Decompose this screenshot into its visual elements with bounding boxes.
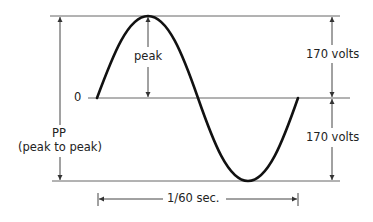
upper-voltage-label: 170 volts	[306, 48, 359, 61]
period-label: 1/60 sec.	[167, 192, 220, 205]
pp-full-label: (peak to peak)	[18, 141, 102, 154]
pp-label: PP	[52, 127, 66, 140]
lower-voltage-label: 170 volts	[306, 131, 359, 144]
zero-label: 0	[74, 91, 81, 104]
sine-wave-diagram	[0, 0, 373, 222]
peak-label: peak	[134, 50, 162, 63]
